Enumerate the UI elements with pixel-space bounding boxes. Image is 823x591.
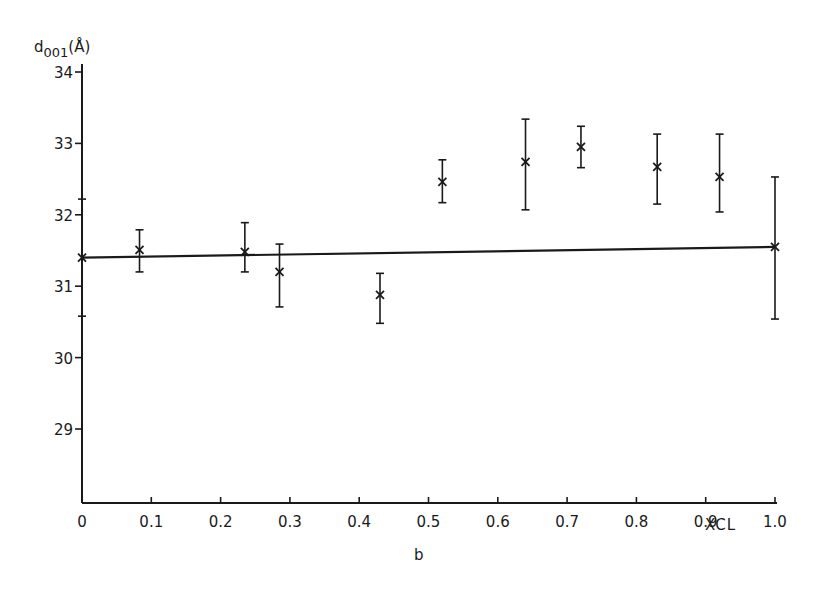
x-tick-label: 0 xyxy=(77,513,87,531)
data-point xyxy=(522,119,530,210)
y-ticks: 293031323334 xyxy=(54,64,82,439)
panel-label: b xyxy=(414,546,424,564)
y-tick-label: 31 xyxy=(54,278,73,296)
x-tick-label: 0.7 xyxy=(555,513,579,531)
x-axis-label: XCL xyxy=(705,516,736,534)
x-tick-label: 0.2 xyxy=(209,513,233,531)
data-point xyxy=(438,160,446,203)
x-tick-label: 0.3 xyxy=(278,513,302,531)
x-tick-label: 0.1 xyxy=(139,513,163,531)
axes xyxy=(82,64,777,503)
fit-line-path xyxy=(82,247,775,258)
y-axis-label: d001(Å) xyxy=(34,37,90,60)
y-tick-label: 30 xyxy=(54,350,73,368)
x-tick-label: 0.4 xyxy=(347,513,371,531)
data-point xyxy=(716,134,724,212)
data-point xyxy=(241,223,249,272)
y-tick-label: 32 xyxy=(54,207,73,225)
data-point xyxy=(136,230,144,272)
x-tick-label: 1.0 xyxy=(763,513,787,531)
x-tick-label: 0.5 xyxy=(417,513,441,531)
y-tick-label: 29 xyxy=(54,421,73,439)
y-tick-label: 34 xyxy=(54,64,73,82)
data-point xyxy=(653,134,661,204)
x-tick-label: 0.8 xyxy=(624,513,648,531)
data-point xyxy=(577,126,585,167)
fit-line xyxy=(82,247,775,258)
x-tick-label: 0.6 xyxy=(486,513,510,531)
y-tick-label: 33 xyxy=(54,135,73,153)
chart: d001(Å) 293031323334 00.10.20.30.40.50.6… xyxy=(0,0,823,591)
data-points xyxy=(78,119,779,323)
data-point xyxy=(376,273,384,323)
